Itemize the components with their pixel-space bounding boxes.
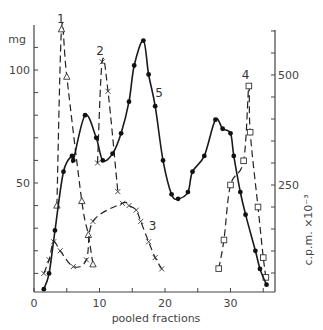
data-point-dot [231, 153, 236, 158]
series-2-curve [98, 58, 118, 191]
data-point-dot [264, 282, 269, 287]
series-2-label: 2 [96, 44, 104, 58]
series-3-curve [44, 202, 162, 273]
data-point-triangle [90, 261, 96, 267]
series-4-label: 4 [242, 68, 250, 82]
x-tick-label: 20 [158, 297, 172, 310]
y-right-axis-label: c.p.m. ×10⁻³ [302, 194, 315, 265]
series-3: 3 [41, 201, 164, 276]
data-point-dot [94, 135, 99, 140]
data-point-square [255, 204, 261, 210]
series-4-curve [219, 85, 266, 277]
data-point-dot [153, 104, 158, 109]
data-point-dot [243, 212, 248, 217]
data-point-dot [202, 153, 207, 158]
data-point-dot [83, 113, 88, 118]
data-point-square [241, 158, 247, 164]
data-point-dot [228, 131, 233, 136]
series-2: 2 [95, 44, 120, 194]
data-point-dot [213, 117, 218, 122]
series-5-label: 5 [155, 86, 163, 100]
y-left-tick-label: 50 [16, 177, 30, 190]
y-left-tick-label: 100 [9, 64, 30, 77]
x-tick-label: 30 [224, 297, 238, 310]
data-point-dot [70, 153, 75, 158]
x-axis-label: pooled fractions [112, 312, 201, 325]
data-point-dot [47, 271, 52, 276]
data-point-dot [132, 63, 137, 68]
data-point-dot [186, 190, 191, 195]
data-point-triangle [79, 198, 85, 204]
series-4: 4 [216, 68, 269, 280]
data-point-triangle [58, 26, 64, 32]
x-tick-label: 0 [31, 297, 38, 310]
data-point-dot [176, 196, 181, 201]
data-point-dot [146, 72, 151, 77]
data-point-dot [71, 158, 76, 163]
chromatography-chart: 010203050100250500 12345 mg pooled fract… [0, 0, 323, 330]
series-1-curve [57, 23, 93, 264]
y-right-tick-label: 500 [278, 69, 299, 82]
data-point-dot [161, 158, 166, 163]
data-point-dot [61, 169, 66, 174]
data-point-square [216, 266, 222, 272]
series-5: 5 [41, 38, 268, 291]
data-point-dot [119, 131, 124, 136]
data-point-dot [169, 192, 174, 197]
data-point-dot [41, 287, 46, 292]
x-tick-label: 10 [93, 297, 107, 310]
data-point-dot [141, 38, 146, 43]
series-layer: 12345 [41, 12, 269, 292]
data-point-triangle [64, 73, 70, 79]
data-point-dot [53, 228, 58, 233]
series-1-label: 1 [57, 12, 65, 26]
data-point-square [246, 83, 252, 89]
data-point-square [260, 255, 266, 261]
data-point-square [221, 237, 227, 243]
y-right-tick-label: 250 [278, 179, 299, 192]
data-point-dot [253, 248, 258, 253]
data-point-triangle [85, 231, 91, 237]
data-point-dot [190, 169, 195, 174]
y-left-axis-label: mg [8, 33, 26, 46]
series-3-label: 3 [149, 219, 157, 233]
data-point-dot [258, 266, 263, 271]
data-point-dot [100, 158, 105, 163]
data-point-dot [220, 126, 225, 131]
axes: 010203050100250500 [9, 25, 299, 310]
data-point-square [228, 182, 234, 188]
data-point-dot [127, 99, 132, 104]
data-point-square [247, 129, 253, 135]
data-point-dot [238, 190, 243, 195]
data-point-dot [110, 151, 115, 156]
